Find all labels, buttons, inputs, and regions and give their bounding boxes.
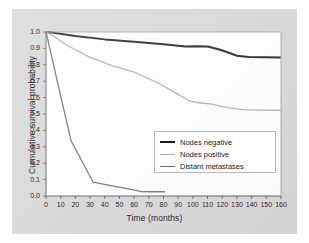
x-tick-label: 90 <box>170 201 186 208</box>
x-axis-label: Time (months) <box>0 213 309 223</box>
legend-item: Nodes positive <box>160 148 229 160</box>
legend-line-swatch <box>160 154 175 155</box>
chart-legend: Nodes negativeNodes positiveDistant meta… <box>154 131 276 173</box>
figure-root: 0.00.10.20.30.40.50.60.70.80.91.00102030… <box>0 0 309 243</box>
legend-line-swatch <box>160 141 175 143</box>
x-tick-label: 110 <box>200 201 216 208</box>
legend-item: Nodes negative <box>160 136 232 148</box>
x-tick-label: 60 <box>126 201 142 208</box>
x-tick-label: 150 <box>258 201 274 208</box>
y-axis-label: Cumulative survival probability <box>27 56 37 174</box>
legend-line-swatch <box>160 166 175 167</box>
x-tick-label: 30 <box>82 201 98 208</box>
x-tick-label: 70 <box>141 201 157 208</box>
legend-item: Distant metastases <box>160 160 244 172</box>
x-tick-label: 10 <box>53 201 69 208</box>
x-tick-label: 0 <box>38 201 54 208</box>
x-tick-label: 40 <box>97 201 113 208</box>
x-tick-label: 50 <box>111 201 127 208</box>
legend-item-label: Nodes positive <box>180 150 229 159</box>
legend-item-label: Distant metastases <box>180 162 244 171</box>
y-axis-label-wrap: Cumulative survival probability <box>21 25 39 205</box>
x-tick-label: 120 <box>214 201 230 208</box>
x-tick-label: 80 <box>156 201 172 208</box>
legend-item-label: Nodes negative <box>180 138 232 147</box>
x-tick-label: 130 <box>229 201 245 208</box>
x-tick-label: 140 <box>244 201 260 208</box>
x-tick-label: 100 <box>185 201 201 208</box>
x-tick-label: 20 <box>67 201 83 208</box>
x-tick-label: 160 <box>273 201 289 208</box>
